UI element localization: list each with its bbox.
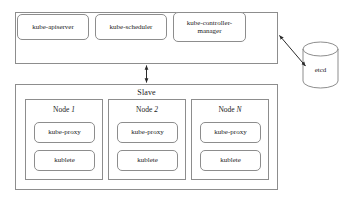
- component-kube-apiserver: kube-apiserver: [17, 14, 89, 40]
- node-box: Node N kube-proxy kublete: [191, 99, 269, 180]
- component-kublete-label: kublete: [135, 156, 160, 165]
- slave-group-box: Slave Node 1 kube-proxy kublete Node 2 k…: [15, 84, 278, 190]
- node-title-name: 1: [71, 105, 75, 114]
- component-kube-proxy: kube-proxy: [117, 122, 178, 143]
- node-box: Node 2 kube-proxy kublete: [108, 99, 186, 180]
- node-box: Node 1 kube-proxy kublete: [25, 99, 103, 180]
- node-title: Node 1: [26, 105, 102, 114]
- node-title-prefix: Node: [53, 105, 71, 114]
- node-title-name: 2: [154, 105, 158, 114]
- node-title-name: N: [237, 105, 242, 114]
- component-kube-proxy-label: kube-proxy: [212, 128, 248, 137]
- component-kublete: kublete: [200, 150, 261, 171]
- etcd-cylinder-icon: [302, 41, 339, 89]
- component-kube-controller-manager: kube-controller-manager: [173, 12, 246, 42]
- component-kube-controller-manager-label: kube-controller-manager: [174, 19, 245, 36]
- node-title: Node N: [192, 105, 268, 114]
- component-kube-proxy-label: kube-proxy: [129, 128, 165, 137]
- slave-group-label: Slave: [16, 88, 277, 97]
- component-kublete-label: kublete: [52, 156, 77, 165]
- component-kube-scheduler-label: kube-scheduler: [108, 23, 155, 32]
- component-kublete: kublete: [117, 150, 178, 171]
- component-kube-scheduler: kube-scheduler: [95, 14, 167, 40]
- node-title-prefix: Node: [218, 105, 236, 114]
- component-kube-proxy-label: kube-proxy: [46, 128, 82, 137]
- component-kublete-label: kublete: [218, 156, 243, 165]
- node-title: Node 2: [109, 105, 185, 114]
- component-kube-proxy: kube-proxy: [34, 122, 95, 143]
- component-kube-apiserver-label: kube-apiserver: [30, 23, 76, 32]
- node-title-prefix: Node: [136, 105, 154, 114]
- kubernetes-architecture-diagram: Master kube-apiserver kube-scheduler kub…: [0, 0, 345, 210]
- component-kube-proxy: kube-proxy: [200, 122, 261, 143]
- component-kublete: kublete: [34, 150, 95, 171]
